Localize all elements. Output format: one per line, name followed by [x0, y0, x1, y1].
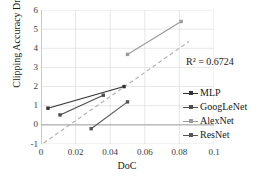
series-mlp: [46, 85, 126, 110]
series-alexnet: [126, 20, 183, 56]
data-point: [126, 100, 129, 103]
data-point: [58, 113, 61, 116]
x-axis-tick-labels: 00.020.040.060.080.1: [0, 148, 265, 162]
x-tick-label: 0.08: [164, 148, 194, 157]
y-tick-label: 1: [16, 101, 38, 110]
x-tick-label: 0.06: [130, 148, 160, 157]
legend-marker-icon: [183, 102, 198, 112]
data-point: [126, 53, 129, 56]
legend-marker-icon: [183, 130, 198, 140]
x-tick-label: 0.1: [199, 148, 229, 157]
series-resnet: [89, 100, 129, 130]
legend-item-label: MLP: [200, 88, 221, 98]
scatter-chart: Clipping Accuracy Drop DoC 6543210-1 00.…: [0, 0, 265, 180]
legend-item-alexnet[interactable]: AlexNet: [183, 114, 265, 128]
data-point: [46, 107, 49, 110]
data-point: [102, 93, 105, 96]
legend-item-label: ResNet: [200, 130, 229, 140]
legend-item-label: AlexNet: [200, 116, 234, 126]
legend-item-googlenet[interactable]: GoogLeNet: [183, 100, 265, 114]
legend-marker-icon: [183, 116, 198, 126]
legend-item-label: GoogLeNet: [200, 102, 247, 112]
y-tick-label: 6: [16, 6, 38, 15]
series-line: [48, 87, 124, 109]
x-tick-label: 0.04: [95, 148, 125, 157]
x-tick-label: 0.02: [61, 148, 91, 157]
y-tick-label: 4: [16, 44, 38, 53]
y-tick-label: 5: [16, 25, 38, 34]
r2-annotation: R² = 0.6724: [186, 56, 234, 67]
data-point: [89, 127, 92, 130]
chart-legend: MLPGoogLeNetAlexNetResNet: [183, 86, 265, 142]
y-tick-label: 3: [16, 63, 38, 72]
series-line: [128, 21, 182, 54]
y-tick-label: 2: [16, 82, 38, 91]
legend-item-mlp[interactable]: MLP: [183, 86, 265, 100]
legend-marker-icon: [183, 88, 198, 98]
data-point: [122, 85, 125, 88]
y-tick-label: 0: [16, 120, 38, 129]
legend-item-resnet[interactable]: ResNet: [183, 128, 265, 142]
x-tick-label: 0: [26, 148, 56, 157]
trendline: [44, 42, 189, 143]
data-point: [179, 20, 182, 23]
